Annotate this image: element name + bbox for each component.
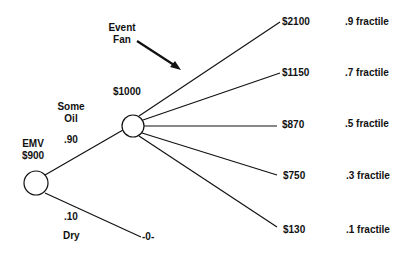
fan-outcome-value: $750 [283,170,305,182]
root-emv-label: EMV $900 [16,138,50,162]
emv-text: EMV [16,138,50,150]
dry-outcome: -0- [142,231,154,243]
dry-label: Dry [63,230,80,242]
fan-outcome-fractile: .3 fractile [346,170,390,182]
fan-outcome-fractile: .5 fractile [345,118,389,130]
root-chance-node [24,171,48,195]
branch-some-oil [45,130,123,175]
fan-outcome-fractile: .7 fractile [345,67,389,79]
event-fan-label: Event Fan [104,22,140,46]
emv-value: $900 [16,150,50,162]
fan-outcome-fractile: .1 fractile [346,224,390,236]
fan-line-1150 [143,73,280,120]
some-oil-line1: Some [54,101,88,113]
fan-outcome-value: $2100 [282,16,310,28]
branch-dry [45,193,141,237]
event-fan-line1: Event [104,22,140,34]
fan-outcome-fractile: .9 fractile [345,16,389,28]
fan-line-2100 [139,22,280,116]
event-fan-arrow [137,41,174,65]
fan-line-130 [139,136,277,227]
some-oil-probability: .90 [64,134,78,146]
fan-line-750 [142,133,277,175]
dry-probability: .10 [64,211,78,223]
event-fan-node-value: $1000 [113,86,141,98]
some-oil-label: Some Oil [54,101,88,125]
fan-outcome-value: $1150 [282,67,309,79]
fan-outcome-value: $130 [283,224,305,236]
some-oil-line2: Oil [54,113,88,125]
event-fan-line2: Fan [104,34,140,46]
fan-outcome-value: $870 [282,119,304,131]
event-fan-chance-node [122,115,144,137]
